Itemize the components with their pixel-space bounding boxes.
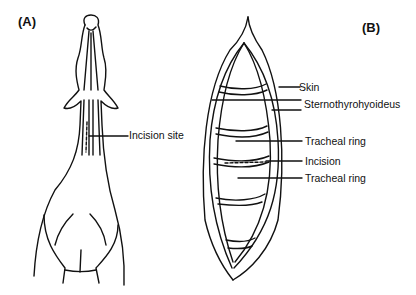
callout-skin: Skin [299,81,319,93]
callout-tracheal-ring-1: Tracheal ring [305,135,366,147]
diagram-drawing [0,0,416,295]
callout-incision: Incision [305,155,341,167]
callout-tracheal-ring-2: Tracheal ring [305,172,366,184]
callout-sternothyrohyoideus: Sternothyrohyoideus [304,98,400,110]
trachea-exposure-icon [203,17,282,280]
callout-incision-site: Incision site [129,129,184,141]
animal-outline-icon [34,15,124,285]
